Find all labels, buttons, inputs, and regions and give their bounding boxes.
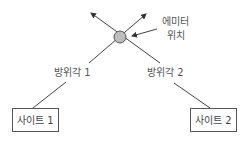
emitter-marker	[114, 31, 126, 43]
bearing-line-1-lower	[33, 82, 66, 108]
direction-finding-diagram: 에미터 위치 방위각 1 방위각 2 사이트 1 사이트 2	[0, 0, 243, 141]
site-2-label: 사이트 2	[195, 115, 232, 126]
emitter-label-line2: 위치	[167, 29, 185, 41]
bearing-label-1: 방위각 1	[54, 66, 91, 78]
bearing-label-2: 방위각 2	[147, 66, 184, 78]
bearing-line-2-lower	[174, 83, 210, 108]
emitter-pointer-arrow	[132, 29, 157, 36]
site-1-label: 사이트 1	[17, 115, 54, 126]
emitter-label-line1: 에미터	[162, 16, 189, 27]
